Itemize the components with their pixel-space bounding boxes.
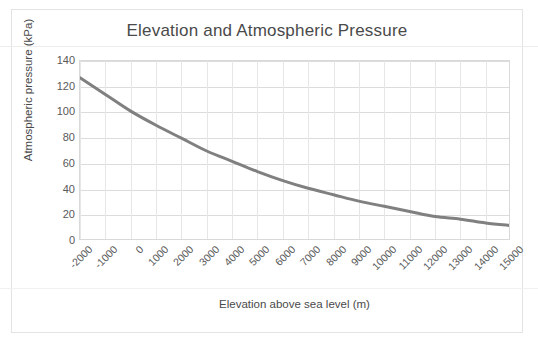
y-tick-label-0: 0 xyxy=(45,234,75,246)
y-tick-label-120: 120 xyxy=(45,80,75,92)
y-axis-tick-labels: 020406080100120140 xyxy=(41,60,75,240)
x-axis-tick-labels: -2000-1000010002000300040005000600070008… xyxy=(79,243,510,293)
y-tick-label-20: 20 xyxy=(45,208,75,220)
x-axis-title: Elevation above sea level (m) xyxy=(79,298,510,310)
chart-figure: Elevation and Atmospheric Pressure Atmos… xyxy=(0,0,538,343)
y-tick-label-100: 100 xyxy=(45,105,75,117)
y-tick-label-80: 80 xyxy=(45,131,75,143)
plot-area xyxy=(79,60,510,240)
y-axis-title: Atmospheric pressure (kPa) xyxy=(22,0,34,180)
y-tick-label-60: 60 xyxy=(45,157,75,169)
scan-seam-top xyxy=(0,46,538,47)
chart-title: Elevation and Atmospheric Pressure xyxy=(11,21,523,41)
y-tick-label-40: 40 xyxy=(45,183,75,195)
y-tick-label-140: 140 xyxy=(45,54,75,66)
series-line-atmospheric-pressure xyxy=(80,61,510,240)
